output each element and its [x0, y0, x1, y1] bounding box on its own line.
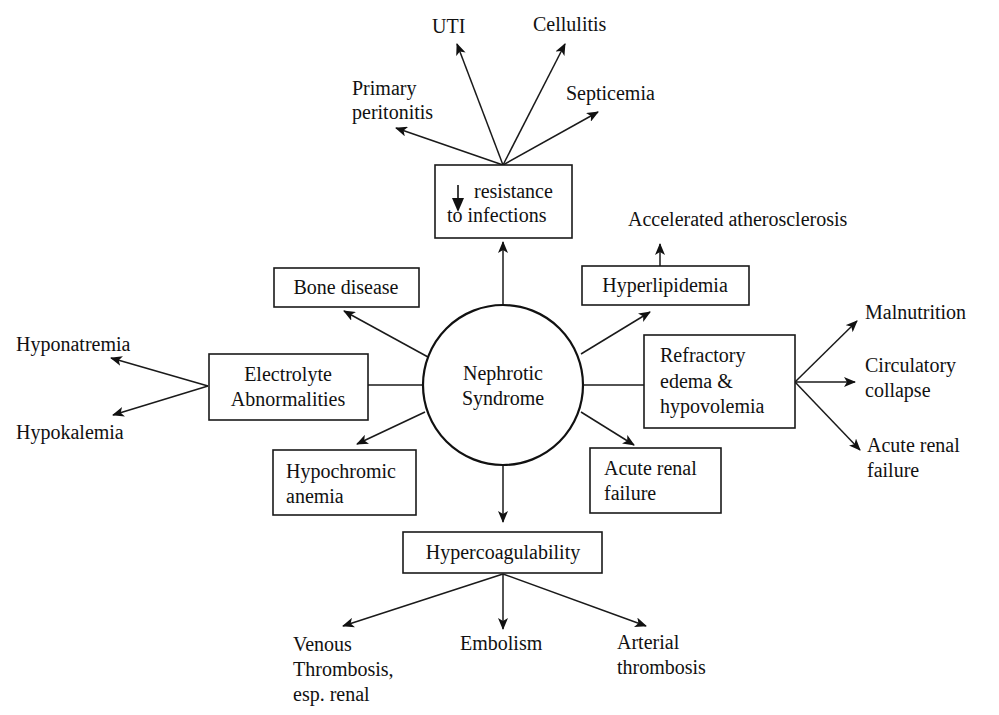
- box-anemia-line1: Hypochromic: [286, 460, 396, 483]
- box-hyperlipidemia-label: Hyperlipidemia: [602, 274, 728, 297]
- box-hyperlipidemia: Hyperlipidemia: [582, 266, 749, 305]
- leaf-malnutrition: Malnutrition: [865, 301, 966, 323]
- edge-edema-arf: [795, 382, 860, 450]
- leaf-venous-line2: Thrombosis,: [293, 658, 394, 680]
- box-resistance-to-infections: resistance to infections: [435, 165, 572, 238]
- nephrotic-syndrome-diagram: Nephrotic Syndrome resistance to infecti…: [0, 0, 999, 715]
- leaf-peritonitis-line1: Primary: [352, 77, 416, 100]
- box-acute-renal-failure: Acute renal failure: [590, 448, 721, 513]
- box-arf-line1: Acute renal: [604, 457, 697, 479]
- leaf-venous-line3: esp. renal: [293, 683, 370, 706]
- edge-hypercoag-venous: [343, 574, 503, 626]
- box-edema-line1: Refractory: [660, 344, 746, 367]
- edge-electrolyte-hypokalemia: [113, 386, 208, 415]
- box-electrolyte-abnormalities: Electrolyte Abnormalities: [209, 354, 368, 420]
- leaf-uti: UTI: [432, 15, 465, 37]
- leaf-atherosclerosis: Accelerated atherosclerosis: [628, 208, 848, 230]
- box-resistance-line1: resistance: [474, 180, 553, 202]
- box-anemia-line2: anemia: [286, 485, 344, 507]
- box-electrolyte-line1: Electrolyte: [244, 363, 332, 386]
- leaf-hyponatremia: Hyponatremia: [16, 333, 131, 356]
- leaf-embolism: Embolism: [460, 632, 543, 654]
- leaf-venous-line1: Venous: [293, 633, 352, 655]
- leaf-arf-line2: failure: [867, 459, 919, 481]
- center-node: Nephrotic Syndrome: [423, 305, 583, 465]
- box-electrolyte-line2: Abnormalities: [231, 388, 346, 410]
- edge-edema-malnutrition: [795, 321, 857, 382]
- box-hypercoagulability: Hypercoagulability: [403, 532, 602, 573]
- box-hypochromic-anemia: Hypochromic anemia: [273, 450, 416, 515]
- leaf-arterial-line1: Arterial: [617, 631, 680, 653]
- edge-center-bone: [344, 311, 428, 357]
- center-label-line1: Nephrotic: [463, 362, 543, 385]
- edge-electrolyte-hyponatremia: [111, 358, 208, 386]
- center-label-line2: Syndrome: [462, 387, 544, 410]
- box-edema-line2: edema &: [660, 370, 733, 392]
- leaf-circulatory-line1: Circulatory: [865, 354, 956, 377]
- leaf-peritonitis-line2: peritonitis: [352, 101, 433, 124]
- leaf-septicemia: Septicemia: [566, 82, 655, 105]
- leaf-hypokalemia: Hypokalemia: [16, 421, 124, 444]
- edge-center-arf-box: [581, 412, 634, 445]
- edge-center-hyperlipidemia: [581, 312, 650, 354]
- box-bone-label: Bone disease: [294, 276, 399, 298]
- leaf-arterial-line2: thrombosis: [617, 656, 706, 678]
- edge-resistance-peritonitis: [396, 128, 503, 165]
- box-edema-line3: hypovolemia: [660, 395, 765, 418]
- box-resistance-line2: to infections: [447, 204, 547, 226]
- box-bone-disease: Bone disease: [274, 268, 419, 307]
- leaf-arf-line1: Acute renal: [867, 434, 960, 456]
- leaf-cellulitis: Cellulitis: [533, 13, 607, 35]
- box-arf-line2: failure: [604, 482, 656, 504]
- edge-hypercoag-arterial: [503, 574, 646, 626]
- edge-resistance-uti: [457, 44, 503, 165]
- box-refractory-edema: Refractory edema & hypovolemia: [644, 335, 795, 428]
- box-hypercoag-label: Hypercoagulability: [426, 541, 580, 564]
- leaf-circulatory-line2: collapse: [865, 379, 931, 402]
